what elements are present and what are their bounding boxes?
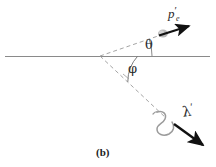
photon-wave-icon (157, 111, 174, 135)
electron-momentum-subscript: e (176, 14, 180, 23)
compton-scattering-figure: p′e θ φ λ′ (b) (0, 0, 216, 167)
figure-caption: (b) (96, 147, 109, 158)
scattered-photon-label: λ′ (181, 101, 194, 118)
diagram-canvas (0, 0, 216, 167)
photon-wave-tail-icon (153, 112, 157, 114)
electron-momentum-label: p′e (168, 5, 179, 23)
photon-direction-arrow (174, 124, 203, 145)
theta-angle-label: θ (145, 38, 153, 51)
phi-angle-label: φ (128, 62, 137, 75)
